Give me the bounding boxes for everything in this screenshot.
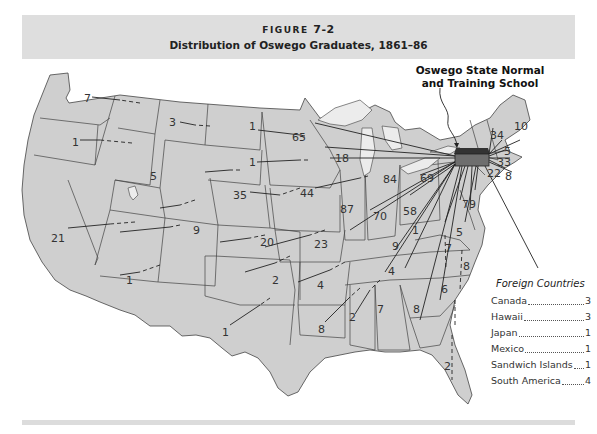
svg-text:7: 7 [84, 92, 91, 105]
leader-dots [525, 341, 584, 353]
svg-text:70: 70 [373, 210, 387, 223]
leader-dots [574, 357, 584, 369]
svg-text:69: 69 [420, 172, 434, 185]
svg-text:4: 4 [317, 279, 324, 292]
svg-text:84: 84 [383, 173, 397, 186]
svg-text:8: 8 [463, 260, 470, 273]
legend-item-value: 4 [585, 373, 591, 389]
svg-text:1: 1 [222, 326, 229, 339]
svg-text:8: 8 [318, 323, 325, 336]
svg-text:1: 1 [126, 274, 133, 287]
school-marker [455, 154, 489, 166]
legend-item: Sandwich Islands1 [491, 357, 591, 373]
svg-text:2: 2 [272, 274, 279, 287]
svg-text:9: 9 [193, 224, 200, 237]
svg-text:3: 3 [169, 116, 176, 129]
foreign-countries-legend: Foreign Countries Canada3 Hawaii3 Japan1… [491, 278, 591, 389]
legend-item-value: 3 [585, 309, 591, 325]
svg-text:20: 20 [260, 236, 274, 249]
legend-item: Canada3 [491, 293, 591, 309]
svg-text:1: 1 [72, 136, 79, 149]
legend-item-value: 1 [585, 341, 591, 357]
svg-text:44: 44 [300, 187, 314, 200]
legend-item-name: Canada [491, 293, 527, 309]
legend-item: Hawaii3 [491, 309, 591, 325]
svg-text:2: 2 [349, 311, 356, 324]
legend-item-name: Mexico [491, 341, 524, 357]
svg-text:4: 4 [388, 265, 395, 278]
svg-text:22: 22 [487, 167, 501, 180]
legend-title: Foreign Countries [491, 278, 591, 289]
svg-text:8: 8 [413, 303, 420, 316]
svg-text:23: 23 [314, 238, 328, 251]
svg-text:8: 8 [505, 170, 512, 183]
legend-item-value: 1 [585, 357, 591, 373]
legend-item: Japan1 [491, 325, 591, 341]
svg-text:34: 34 [490, 129, 504, 142]
legend-item-value: 3 [585, 293, 591, 309]
svg-text:1: 1 [249, 156, 256, 169]
legend-item: South America4 [491, 373, 591, 389]
svg-text:10: 10 [514, 120, 528, 133]
svg-text:58: 58 [403, 205, 417, 218]
leader-dots [524, 309, 584, 321]
svg-text:6: 6 [441, 283, 448, 296]
figure-footer-rule [22, 420, 575, 425]
legend-item-name: Sandwich Islands [491, 357, 573, 373]
school-label-line1: Oswego State Normal [410, 64, 550, 77]
leader-dots [528, 293, 584, 305]
svg-text:2: 2 [444, 360, 451, 373]
leader-dots [519, 325, 584, 337]
svg-text:7: 7 [377, 303, 384, 316]
legend-item-name: Hawaii [491, 309, 523, 325]
legend-item: Mexico1 [491, 341, 591, 357]
legend-item-name: Japan [491, 325, 518, 341]
svg-text:9: 9 [392, 240, 399, 253]
svg-text:1: 1 [249, 120, 256, 133]
svg-text:18: 18 [335, 152, 349, 165]
school-pointer-arrow [440, 88, 457, 146]
svg-text:5: 5 [456, 226, 463, 239]
school-label: Oswego State Normal and Training School [410, 64, 550, 90]
svg-text:7: 7 [445, 242, 452, 255]
svg-text:21: 21 [51, 232, 65, 245]
legend-item-name: South America [491, 373, 561, 389]
svg-text:1: 1 [412, 224, 419, 237]
svg-text:79: 79 [462, 198, 476, 211]
school-label-line2: and Training School [410, 77, 550, 90]
school-marker-top [454, 148, 490, 154]
svg-text:35: 35 [233, 189, 247, 202]
legend-item-value: 1 [585, 325, 591, 341]
svg-text:65: 65 [292, 131, 306, 144]
svg-text:87: 87 [340, 203, 354, 216]
svg-text:5: 5 [150, 170, 157, 183]
leader-dots [562, 373, 584, 385]
